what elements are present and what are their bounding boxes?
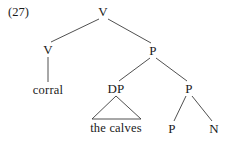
tree-edge <box>51 19 99 42</box>
tree-edge <box>108 19 151 43</box>
tree-node-p-upper: P <box>149 44 156 57</box>
constituent-triangle <box>92 96 141 119</box>
tree-node-corral: corral <box>33 84 63 97</box>
tree-node-n-leaf: N <box>209 122 219 135</box>
tree-edge <box>192 96 212 121</box>
tree-node-v-root: V <box>98 5 108 18</box>
tree-edge <box>119 58 150 81</box>
tree-edge <box>174 96 186 121</box>
tree-node-dp: DP <box>107 82 124 95</box>
edge-group <box>48 19 212 121</box>
triangle-group <box>92 96 141 119</box>
syntax-tree-figure: (27) VVPcorralDPPthe calvesPN <box>0 0 235 144</box>
tree-node-p-leaf: P <box>168 122 175 135</box>
tree-node-v-left: V <box>43 43 53 56</box>
tree-node-p-mid: P <box>185 82 192 95</box>
tree-node-calves: the calves <box>90 122 142 135</box>
tree-edge <box>156 58 187 81</box>
